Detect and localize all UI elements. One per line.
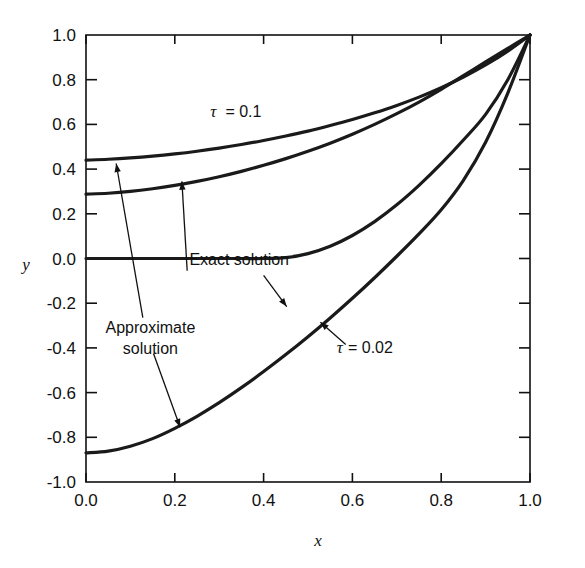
y-tick-label: -0.6 [47, 384, 76, 403]
x-tick-label: 0.6 [341, 491, 365, 510]
y-tick-label: -0.2 [47, 294, 76, 313]
tau-value: = 0.02 [348, 339, 393, 356]
chart-canvas: 0.00.20.40.60.81.0 1.00.80.60.40.20.0-0.… [0, 0, 585, 568]
y-tick-label: 0.8 [52, 71, 76, 90]
y-tick-label: -1.0 [47, 473, 76, 492]
y-tick-label: 0.4 [52, 160, 76, 179]
annotation-exact: Exact solution [189, 251, 289, 268]
y-tick-label: -0.4 [47, 339, 76, 358]
x-tick-label: 0.8 [429, 491, 453, 510]
tau-symbol: τ [210, 102, 217, 121]
annotation-line-1: Approximate [105, 319, 195, 336]
x-tick-label: 0.4 [252, 491, 276, 510]
annotation-line-1: Exact solution [189, 251, 289, 268]
y-axis-title: y [20, 255, 30, 274]
tau-value: = 0.1 [225, 103, 261, 120]
y-tick-label: 0.6 [52, 115, 76, 134]
tau-symbol: τ [337, 338, 344, 357]
annotation-line-2: solution [123, 340, 178, 357]
chart-figure: 0.00.20.40.60.81.0 1.00.80.60.40.20.0-0.… [0, 0, 585, 568]
y-tick-label: -0.8 [47, 428, 76, 447]
y-tick-label: 1.0 [52, 26, 76, 45]
x-tick-label: 1.0 [518, 491, 542, 510]
x-tick-label: 0.2 [163, 491, 187, 510]
y-tick-label: 0.2 [52, 205, 76, 224]
x-axis-title: x [313, 531, 322, 550]
y-tick-label: 0.0 [52, 250, 76, 269]
x-tick-label: 0.0 [74, 491, 98, 510]
